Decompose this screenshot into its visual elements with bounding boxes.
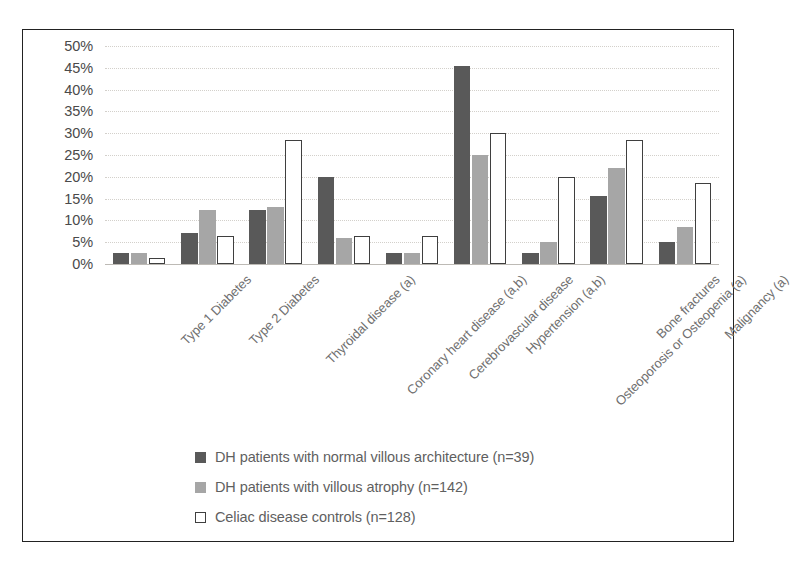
- chart-legend: DH patients with normal villous architec…: [195, 442, 665, 532]
- y-axis-tick-label: 50%: [64, 38, 93, 54]
- y-axis-tick-label: 30%: [64, 125, 93, 141]
- bar: [318, 177, 335, 264]
- bar: [199, 210, 216, 265]
- legend-swatch-icon: [195, 482, 206, 493]
- legend-item[interactable]: DH patients with normal villous architec…: [195, 442, 665, 472]
- bar-group: [651, 46, 719, 264]
- legend-swatch-icon: [195, 452, 206, 463]
- y-axis-tick-label: 5%: [72, 234, 93, 250]
- legend-item[interactable]: Celiac disease controls (n=128): [195, 502, 665, 532]
- bar-group: [105, 46, 173, 264]
- bar: [217, 236, 234, 264]
- bar: [336, 238, 353, 264]
- bar: [472, 155, 489, 264]
- bar-group: [378, 46, 446, 264]
- bar: [404, 253, 421, 264]
- bar: [149, 258, 166, 264]
- bar-group: [310, 46, 378, 264]
- y-axis: 50%45%40%35%30%25%20%15%10%5%0%: [33, 46, 99, 264]
- y-axis-tick-label: 0%: [72, 256, 93, 272]
- bar: [422, 236, 439, 264]
- bar-group: [241, 46, 309, 264]
- bar: [558, 177, 575, 264]
- bar: [249, 210, 266, 265]
- y-axis-tick-label: 10%: [64, 212, 93, 228]
- chart-figure: 50%45%40%35%30%25%20%15%10%5%0% Type 1 D…: [22, 29, 734, 542]
- y-axis-tick-label: 40%: [64, 82, 93, 98]
- bar: [267, 207, 284, 264]
- bar: [522, 253, 539, 264]
- bar: [608, 168, 625, 264]
- bar: [677, 227, 694, 264]
- bars-layer: [105, 46, 719, 264]
- bar: [590, 196, 607, 264]
- bar: [354, 236, 371, 264]
- x-axis-tick-label: Type 2 Diabetes: [246, 272, 322, 348]
- bar: [181, 233, 198, 264]
- bar: [454, 66, 471, 264]
- y-axis-tick-label: 25%: [64, 147, 93, 163]
- legend-item-label: DH patients with normal villous architec…: [215, 449, 534, 465]
- bar: [626, 140, 643, 264]
- bar-group: [583, 46, 651, 264]
- axis-baseline: [105, 264, 719, 265]
- bar: [131, 253, 148, 264]
- bar: [113, 253, 130, 264]
- y-axis-tick-label: 15%: [64, 191, 93, 207]
- y-axis-tick-label: 20%: [64, 169, 93, 185]
- bar: [386, 253, 403, 264]
- bar: [659, 242, 676, 264]
- bar: [695, 183, 712, 264]
- x-axis-tick-label: Thyroidal disease (a): [322, 272, 417, 367]
- x-axis-tick-label: Osteoporosis or Osteopenia (a): [613, 272, 750, 409]
- bar: [540, 242, 557, 264]
- bar-group: [173, 46, 241, 264]
- bar: [490, 133, 507, 264]
- y-axis-tick-label: 35%: [64, 103, 93, 119]
- bar: [285, 140, 302, 264]
- legend-item[interactable]: DH patients with villous atrophy (n=142): [195, 472, 665, 502]
- legend-item-label: Celiac disease controls (n=128): [215, 509, 415, 525]
- legend-item-label: DH patients with villous atrophy (n=142): [215, 479, 468, 495]
- bar-group: [446, 46, 514, 264]
- legend-swatch-icon: [195, 512, 206, 523]
- y-axis-tick-label: 45%: [64, 60, 93, 76]
- x-axis-tick-label: Type 1 Diabetes: [178, 272, 254, 348]
- bar-group: [514, 46, 582, 264]
